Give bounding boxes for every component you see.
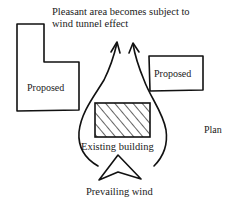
prevailing-wind-arrow-icon <box>99 155 141 180</box>
existing-building-label: Existing building <box>81 141 154 152</box>
prevailing-wind-label: Prevailing wind <box>86 186 154 197</box>
title-line-1: Pleasant area becomes subject to <box>52 6 190 17</box>
proposed-building-left-label: Proposed <box>27 82 64 93</box>
proposed-building-right-label: Proposed <box>154 68 191 79</box>
title-line-2: wind tunnel effect <box>52 18 128 29</box>
proposed-building-left <box>17 24 79 111</box>
wind-tunnel-diagram: Pleasant area becomes subject to wind tu… <box>0 0 234 205</box>
plan-label: Plan <box>204 124 222 135</box>
existing-building <box>95 103 150 137</box>
diagram-svg: Pleasant area becomes subject to wind tu… <box>0 0 234 205</box>
